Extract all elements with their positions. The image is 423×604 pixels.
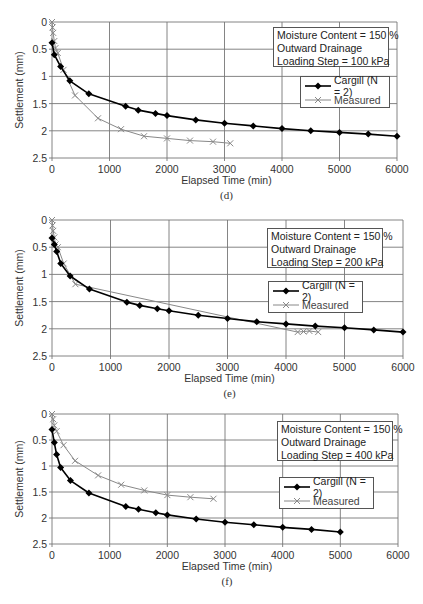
info-moisture: Moisture Content = 150 % (277, 29, 385, 42)
x-tick-label: 0 (49, 549, 55, 561)
info-moisture: Moisture Content = 150 % (281, 423, 389, 436)
diamond-marker-icon (370, 326, 377, 333)
diamond-marker-icon (152, 509, 159, 516)
x-marker-icon (304, 93, 332, 107)
x-marker-icon (95, 115, 101, 121)
diamond-marker-icon (49, 426, 56, 433)
legend-label-measured: Measured (334, 94, 381, 106)
info-loading: Loading Step = 200 kPa (271, 256, 379, 269)
legend-e: Cargill (N = 2) Measured (268, 281, 363, 313)
diamond-marker-icon (135, 107, 142, 114)
diamond-marker-icon (123, 299, 130, 306)
y-tick-label: 0 (41, 214, 47, 226)
info-drainage: Outward Drainage (271, 243, 379, 256)
diamond-marker-icon (337, 529, 344, 536)
y-tick-label: 2 (41, 125, 47, 137)
diamond-marker-icon (195, 312, 202, 319)
x-tick-label: 6000 (391, 361, 415, 373)
diamond-marker-icon (164, 112, 171, 119)
legend-item-measured: Measured (304, 93, 386, 107)
series-measured (49, 19, 233, 146)
info-drainage: Outward Drainage (277, 42, 385, 55)
diamond-marker-icon (135, 506, 142, 513)
x-axis-label: Elapsed Time (min) (184, 372, 274, 384)
x-marker-icon (283, 494, 311, 508)
diamond-marker-icon (250, 521, 257, 528)
diamond-marker-icon (53, 451, 60, 458)
diamond-marker-icon (272, 284, 300, 298)
y-tick-label: 1 (41, 70, 47, 82)
y-tick-label: 0.5 (32, 434, 47, 446)
legend-item-cargill: Cargill (N = 2) (304, 79, 386, 93)
legend-label-measured: Measured (302, 299, 349, 311)
x-marker-icon (61, 442, 67, 448)
info-box-e: Moisture Content = 150 % Outward Drainag… (267, 228, 383, 268)
info-box-d: Moisture Content = 150 % Outward Drainag… (273, 27, 389, 67)
x-axis-label: Elapsed Time (min) (182, 560, 272, 572)
diamond-marker-icon (308, 526, 315, 533)
legend-item-measured: Measured (272, 298, 359, 312)
y-tick-label: 2.5 (32, 350, 47, 362)
y-axis-label: Settlement (mm) (13, 440, 25, 518)
x-marker-icon (95, 472, 101, 478)
diamond-marker-icon (122, 503, 129, 510)
x-tick-label: 5000 (328, 163, 352, 175)
x-tick-label: 6000 (385, 163, 409, 175)
panel-caption: (f) (222, 575, 233, 588)
y-tick-label: 1 (41, 268, 47, 280)
x-tick-label: 6000 (386, 549, 410, 561)
diamond-marker-icon (136, 302, 143, 309)
x-tick-label: 0 (49, 163, 55, 175)
x-marker-icon (118, 126, 124, 132)
info-loading: Loading Step = 400 kPa (281, 449, 389, 462)
diamond-marker-icon (394, 133, 401, 140)
info-loading: Loading Step = 100 kPa (277, 55, 385, 68)
y-tick-label: 1.5 (32, 296, 47, 308)
diamond-marker-icon (307, 127, 314, 134)
legend-f: Cargill (N = 2) Measured (279, 477, 374, 509)
diamond-marker-icon (166, 307, 173, 314)
y-tick-label: 1.5 (32, 486, 47, 498)
info-drainage: Outward Drainage (281, 436, 389, 449)
diamond-marker-icon (283, 320, 290, 327)
y-tick-label: 2.5 (32, 538, 47, 550)
legend-item-cargill: Cargill (N = 2) (272, 284, 359, 298)
y-tick-label: 2.5 (32, 152, 47, 164)
info-box-f: Moisture Content = 150 % Outward Drainag… (277, 421, 393, 461)
y-axis-label: Settlement (mm) (13, 51, 25, 129)
diamond-marker-icon (250, 122, 257, 129)
x-tick-label: 4000 (271, 549, 295, 561)
y-axis-label: Settlement (mm) (13, 249, 25, 327)
y-tick-label: 1.5 (32, 98, 47, 110)
diamond-marker-icon (193, 516, 200, 523)
x-tick-label: 2000 (155, 163, 179, 175)
panel-caption: (d) (220, 189, 233, 202)
diamond-marker-icon (152, 110, 159, 117)
diamond-marker-icon (192, 116, 199, 123)
legend-d: Cargill (N = 2) Measured (300, 76, 390, 108)
x-tick-label: 5000 (333, 361, 357, 373)
diamond-marker-icon (279, 524, 286, 531)
diamond-marker-icon (341, 324, 348, 331)
x-tick-label: 4000 (274, 361, 298, 373)
series-measured (49, 411, 216, 502)
x-tick-label: 1000 (98, 549, 122, 561)
x-marker-icon (72, 458, 78, 464)
x-marker-icon (272, 298, 300, 312)
x-axis-label: Elapsed Time (min) (181, 174, 271, 186)
y-tick-label: 2 (41, 323, 47, 335)
diamond-marker-icon (283, 480, 311, 494)
x-tick-label: 4000 (270, 163, 294, 175)
diamond-marker-icon (336, 129, 343, 136)
legend-item-cargill: Cargill (N = 2) (283, 480, 370, 494)
y-tick-label: 0.5 (32, 43, 47, 55)
y-tick-label: 0 (41, 16, 47, 28)
info-moisture: Moisture Content = 150 % (271, 230, 379, 243)
y-tick-label: 1 (41, 460, 47, 472)
legend-label-measured: Measured (313, 495, 360, 507)
x-tick-label: 2000 (157, 361, 181, 373)
diamond-marker-icon (400, 329, 407, 336)
y-tick-label: 2 (41, 512, 47, 524)
diamond-marker-icon (164, 511, 171, 518)
x-tick-label: 0 (49, 361, 55, 373)
